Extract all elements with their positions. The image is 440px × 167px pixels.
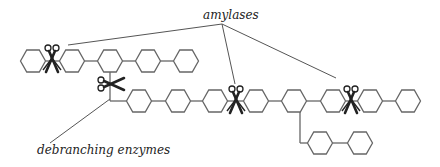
amylase-pointer-line <box>222 24 235 84</box>
amylase-scissors-icon <box>227 86 245 113</box>
glucose-ring-icon <box>358 90 383 112</box>
glucose-ring-icon <box>348 132 373 154</box>
glucose-ring-icon <box>127 90 152 112</box>
glucose-ring-icon <box>21 50 46 72</box>
glucose-ring-icon <box>174 50 199 72</box>
glucose-ring-icon <box>282 90 307 112</box>
glucose-ring-icon <box>136 50 161 72</box>
debranching-scissors-icon <box>98 77 124 91</box>
glucose-ring-icon <box>98 50 123 72</box>
amylases-label: amylases <box>203 8 259 22</box>
amylase-pointer-line <box>222 24 336 78</box>
glucose-ring-icon <box>244 90 269 112</box>
glucose-ring-icon <box>60 50 85 72</box>
amylase-scissors-icon <box>43 45 61 72</box>
glucose-ring-icon <box>203 90 228 112</box>
glucose-ring-icon <box>166 90 191 112</box>
starch-digestion-diagram <box>0 0 440 167</box>
amylase-pointer-line <box>68 24 222 45</box>
glucose-ring-icon <box>308 132 333 154</box>
glucose-ring-icon <box>321 90 346 112</box>
debranching-enzymes-label: debranching enzymes <box>37 143 170 157</box>
debranching-pointer-line <box>50 99 110 143</box>
glucose-ring-icon <box>396 90 421 112</box>
